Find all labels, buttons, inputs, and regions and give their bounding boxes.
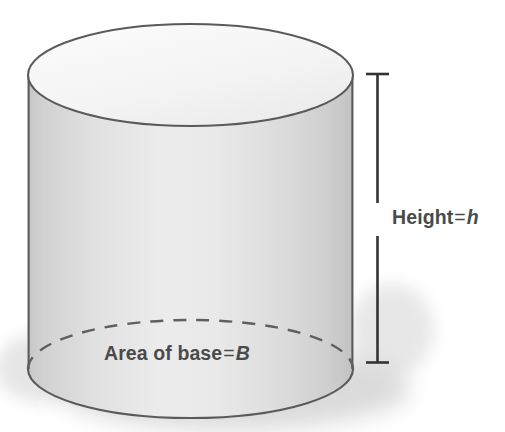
height-label-prefix: Height [392,206,453,228]
cylinder-figure: Height=h Area of base=B [0,0,505,432]
cylinder-top-face [28,24,353,126]
height-label-equals: = [453,206,467,228]
height-label-variable: h [467,206,479,228]
base-area-label: Area of base=B [104,342,250,365]
base-label-equals: = [222,342,236,364]
base-label-variable: B [236,342,250,364]
height-label: Height=h [392,206,479,229]
base-label-prefix: Area of base [104,342,222,364]
